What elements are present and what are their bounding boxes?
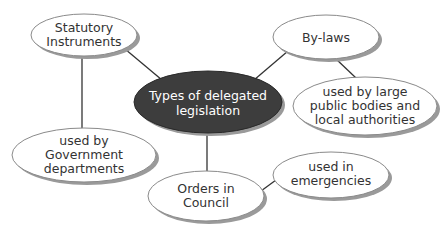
node-used-by-public-bodies: used by large public bodies and local au… [293,77,440,138]
node-label-line-2: emergencies [291,173,372,188]
node-label-line-2: public bodies and [310,98,420,113]
node-label-line-1: By-laws [302,30,350,45]
edge-orders-emergencies [261,180,276,191]
node-label-line-3: departments [44,161,124,176]
edge-central-statutory [125,49,162,80]
node-by-laws: By-laws [273,15,382,62]
node-label-line-3: local authorities [315,112,415,127]
node-central-types-of-delegated-legislation: Types of delegated legislation [134,71,285,136]
central-label-line-1: Types of delegated [148,88,267,103]
node-used-in-emergencies: used in emergencies [273,152,392,201]
node-label-line-2: Instruments [46,34,121,49]
node-label-line-1: used by large [322,84,407,99]
central-label-line-2: legislation [176,103,240,118]
edge-central-bylaws [254,51,288,80]
node-label-line-1: Orders in [177,181,234,196]
node-statutory-instruments: Statutory Instruments [31,14,140,59]
node-label-line-1: used in [308,159,353,174]
node-used-by-government-departments: used by Government departments [12,128,159,185]
node-label-line-1: Statutory [55,20,114,35]
node-label-line-1: used by [59,133,109,148]
node-label-line-2: Government [45,147,123,162]
delegated-legislation-mind-map: Statutory Instruments By-laws Types of d… [0,0,447,233]
node-orders-in-council: Orders in Council [148,171,267,224]
node-label-line-2: Council [183,195,229,210]
